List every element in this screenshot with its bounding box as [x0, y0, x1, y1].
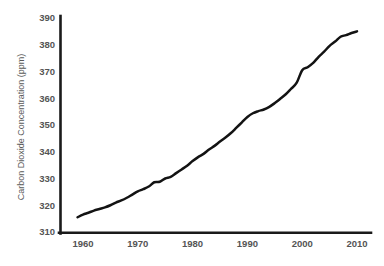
y-axis-tick-labels: 310320330340350360370380390: [39, 12, 55, 237]
y-tick-label: 320: [39, 200, 55, 211]
y-tick-label: 360: [39, 93, 55, 104]
x-tick-label: 1990: [237, 238, 258, 249]
y-tick-label: 370: [39, 66, 55, 77]
y-tick-label: 330: [39, 173, 55, 184]
co2-line-chart: Carbon Dioxide Concentration (ppm) 31032…: [0, 0, 384, 266]
y-tick-label: 390: [39, 12, 55, 23]
x-tick-label: 2000: [292, 238, 313, 249]
y-tick-label: 350: [39, 119, 55, 130]
y-axis-title: Carbon Dioxide Concentration (ppm): [16, 54, 26, 201]
x-tick-label: 2010: [346, 238, 367, 249]
x-tick-label: 1980: [182, 238, 203, 249]
y-tick-label: 310: [39, 226, 55, 237]
chart-canvas: Carbon Dioxide Concentration (ppm) 31032…: [0, 0, 384, 266]
x-tick-label: 1960: [72, 238, 93, 249]
chart-background: [0, 0, 384, 266]
x-tick-label: 1970: [127, 238, 148, 249]
y-tick-label: 380: [39, 39, 55, 50]
y-tick-label: 340: [39, 146, 55, 157]
